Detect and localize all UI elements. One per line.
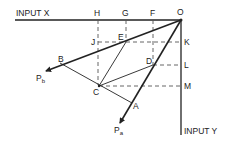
label-g: G	[122, 8, 129, 18]
label-m: M	[184, 81, 191, 91]
label-h: H	[94, 8, 100, 18]
construction-lines	[60, 42, 153, 103]
vector-diagram: INPUT X INPUT Y O H G F K L M J E D C B …	[0, 0, 233, 144]
label-e: E	[118, 32, 124, 42]
label-l: L	[184, 60, 189, 70]
vector-pa	[120, 20, 181, 123]
input-x-label: INPUT X	[16, 8, 50, 18]
dashed-projections	[98, 20, 181, 86]
input-y-label: INPUT Y	[184, 126, 218, 136]
label-pa: Pa	[114, 125, 124, 136]
point-o-dot	[180, 19, 183, 22]
label-j: J	[91, 37, 95, 47]
label-pb: Pb	[36, 73, 46, 84]
vector-pb	[46, 20, 181, 71]
label-k: K	[184, 37, 190, 47]
label-f: F	[150, 8, 155, 18]
label-b: B	[58, 54, 64, 64]
label-d: D	[146, 56, 152, 66]
label-a: A	[133, 101, 139, 111]
label-c: C	[93, 87, 99, 97]
label-o: O	[177, 7, 184, 17]
